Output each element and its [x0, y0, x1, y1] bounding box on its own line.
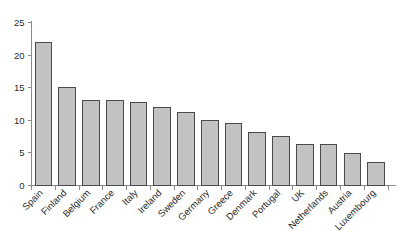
bar: [83, 100, 100, 185]
bar: [35, 43, 52, 186]
bar: [59, 87, 76, 185]
y-tick-label: 0: [19, 180, 24, 191]
y-tick-label: 20: [14, 50, 25, 61]
bar: [344, 154, 361, 186]
y-tick-label: 5: [19, 147, 24, 158]
bar-chart: 0510152025 SpainFinlandBelgiumFranceItal…: [0, 0, 406, 249]
bar: [320, 144, 337, 185]
bar: [249, 132, 266, 185]
bar: [154, 108, 171, 186]
y-tick-label: 25: [14, 17, 25, 28]
bar: [106, 101, 123, 186]
bar: [368, 162, 385, 185]
y-tick-label: 10: [14, 115, 25, 126]
chart-canvas: 0510152025 SpainFinlandBelgiumFranceItal…: [0, 0, 406, 249]
bar: [130, 103, 147, 186]
y-tick-label: 15: [14, 82, 25, 93]
bar: [273, 137, 290, 186]
bar: [225, 124, 242, 186]
bar: [297, 144, 314, 185]
bar: [178, 112, 195, 185]
bar: [201, 121, 218, 186]
